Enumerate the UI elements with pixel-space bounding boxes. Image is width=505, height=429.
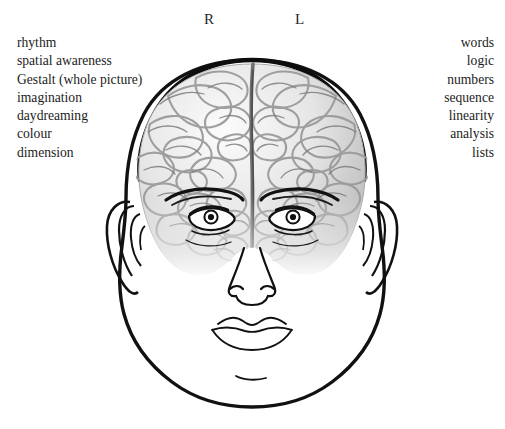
longitudinal-fissure: [251, 64, 253, 248]
brain-illustration: [132, 64, 372, 274]
head-brain-figure: [0, 0, 505, 429]
brain-hemisphere-diagram: R L rhythm spatial awareness Gestalt (wh…: [0, 0, 505, 429]
